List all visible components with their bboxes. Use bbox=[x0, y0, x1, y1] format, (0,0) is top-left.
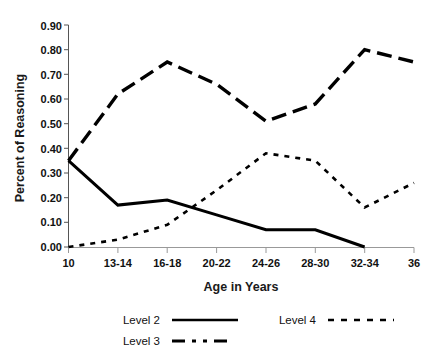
y-tick-label: 0.70 bbox=[41, 69, 62, 81]
y-axis-title: Percent of Reasoning bbox=[13, 74, 27, 203]
x-axis-ticks bbox=[69, 248, 415, 254]
legend-label-level-3: Level 3 bbox=[123, 335, 160, 347]
y-tick-label: 0.20 bbox=[41, 192, 62, 204]
x-tick-labels: 10 13-14 16-18 20-22 24-26 28-30 32-34 3… bbox=[62, 257, 420, 269]
x-tick-label: 16-18 bbox=[153, 257, 181, 269]
x-tick-label: 24-26 bbox=[252, 257, 280, 269]
legend-label-level-2: Level 2 bbox=[123, 314, 160, 326]
legend-label-level-4: Level 4 bbox=[279, 314, 317, 326]
axis-lines bbox=[64, 25, 414, 253]
y-tick-labels: 0.90 0.80 0.70 0.60 0.50 0.40 0.30 0.20 … bbox=[41, 20, 62, 253]
y-axis-ticks bbox=[64, 25, 69, 247]
series-line-level-2 bbox=[69, 161, 365, 247]
y-tick-label: 0.00 bbox=[41, 241, 62, 253]
x-tick-label: 36 bbox=[408, 257, 420, 269]
series-line-level-4 bbox=[69, 153, 415, 247]
y-tick-label: 0.50 bbox=[41, 118, 62, 130]
y-tick-label: 0.90 bbox=[41, 20, 62, 32]
x-tick-label: 28-30 bbox=[301, 257, 329, 269]
x-tick-label: 10 bbox=[62, 257, 74, 269]
y-tick-label: 0.10 bbox=[41, 216, 62, 228]
y-tick-label: 0.80 bbox=[41, 44, 62, 56]
y-tick-label: 0.60 bbox=[41, 93, 62, 105]
chart-legend: Level 2 Level 3 Level 4 bbox=[123, 314, 394, 347]
x-tick-label: 13-14 bbox=[104, 257, 133, 269]
y-tick-label: 0.30 bbox=[41, 167, 62, 179]
data-series-layer bbox=[69, 50, 415, 247]
x-axis-title: Age in Years bbox=[204, 280, 279, 294]
series-line-level-3 bbox=[69, 50, 415, 161]
x-tick-label: 32-34 bbox=[351, 257, 380, 269]
y-tick-label: 0.40 bbox=[41, 143, 62, 155]
x-tick-label: 20-22 bbox=[203, 257, 231, 269]
chart-svg: Percent of Reasoning 0.90 0.80 0.70 0.60… bbox=[0, 0, 428, 359]
